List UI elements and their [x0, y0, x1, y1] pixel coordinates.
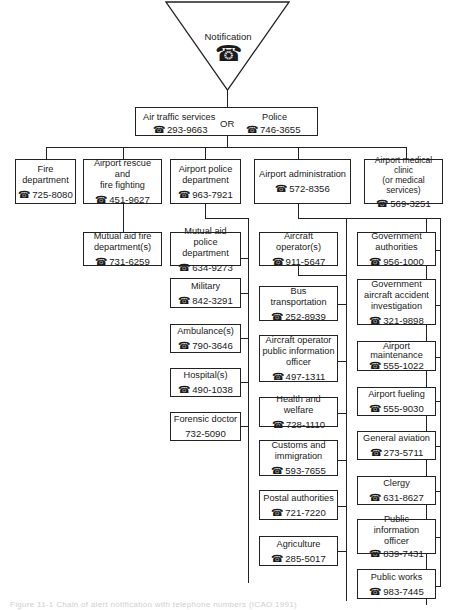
- air-traffic-services-phone: ☎293-9663: [153, 124, 208, 135]
- hospital-box: Hospital(s) ☎490-1038: [170, 368, 241, 397]
- telephone-icon: ☎: [178, 340, 190, 351]
- connector: [241, 293, 249, 294]
- telephone-icon: ☎: [178, 262, 190, 273]
- connector: [241, 382, 249, 383]
- telephone-icon: ☎: [95, 194, 107, 205]
- health-welfare-box: Health and welfare ☎728-1110: [259, 397, 338, 427]
- telephone-icon: ☎: [271, 553, 283, 564]
- telephone-icon: ☎: [210, 42, 246, 66]
- connector: [298, 204, 299, 219]
- connector: [426, 218, 441, 219]
- telephone-icon: ☎: [369, 315, 381, 326]
- connector: [436, 491, 441, 492]
- airport-rescue-box: Airport rescue and fire fighting ☎451-96…: [83, 159, 162, 204]
- air-traffic-services-label: Air traffic services: [143, 112, 215, 122]
- connector: [123, 204, 124, 232]
- general-aviation-box: General aviation ☎273-5711: [357, 431, 436, 460]
- public-works-box: Public works ☎983-7445: [357, 569, 436, 599]
- aircraft-operator-pio-box: Aircraft operator public information off…: [259, 335, 338, 382]
- connector: [205, 204, 206, 219]
- public-information-officer-box: Public information officer ☎839-7431: [357, 519, 436, 554]
- telephone-icon: ☎: [271, 465, 283, 476]
- airport-police-box: Airport police department ☎963-7921: [170, 159, 241, 204]
- or-connector: OR: [220, 118, 234, 129]
- connector: [338, 304, 347, 305]
- telephone-icon: ☎: [369, 256, 381, 267]
- military-box: Military ☎842-3291: [170, 278, 241, 308]
- connector: [205, 147, 206, 159]
- fire-department-box: Fire department ☎725-8080: [15, 159, 76, 204]
- connector: [298, 218, 427, 219]
- aircraft-operators-box: Aircraft operator(s) ☎911-5647: [259, 232, 338, 266]
- connector: [338, 506, 347, 507]
- connector: [241, 426, 249, 427]
- telephone-icon: ☎: [153, 124, 165, 135]
- connector: [241, 338, 249, 339]
- connector: [338, 551, 347, 552]
- police-phone: ☎746-3655: [246, 124, 301, 135]
- connector: [436, 305, 441, 306]
- connector: [436, 357, 441, 358]
- connector: [338, 361, 347, 362]
- mutual-aid-police-box: Mutual aid police department ☎634-9273: [170, 232, 241, 266]
- connector: [338, 413, 347, 414]
- telephone-icon: ☎: [376, 198, 388, 209]
- postal-authorities-box: Postal authorities ☎721-7220: [259, 490, 338, 520]
- telephone-icon: ☎: [95, 256, 107, 267]
- connector: [436, 537, 441, 538]
- airport-maintenance-box: Airport maintenance ☎555-1022: [357, 341, 436, 371]
- telephone-icon: ☎: [272, 419, 284, 430]
- figure-caption: Figure 11-1 Chain of alert notification …: [10, 600, 297, 609]
- telephone-icon: ☎: [246, 124, 258, 135]
- connector: [440, 218, 441, 587]
- telephone-icon: ☎: [369, 403, 381, 414]
- mutual-aid-fire-box: Mutual aid fire department(s) ☎731-6259: [83, 232, 162, 266]
- connector: [298, 275, 347, 276]
- telephone-icon: ☎: [369, 586, 381, 597]
- telephone-icon: ☎: [275, 183, 287, 194]
- connector: [46, 147, 47, 159]
- telephone-icon: ☎: [178, 384, 190, 395]
- government-authorities-box: Government authorities ☎956-1000: [357, 232, 436, 266]
- connector: [338, 460, 347, 461]
- telephone-icon: ☎: [272, 256, 284, 267]
- telephone-icon: ☎: [272, 371, 284, 382]
- connector: [298, 147, 299, 159]
- connector: [436, 250, 441, 251]
- telephone-icon: ☎: [271, 507, 283, 518]
- telephone-icon: ☎: [18, 189, 30, 200]
- telephone-icon: ☎: [369, 492, 381, 503]
- agriculture-box: Agriculture ☎285-5017: [259, 536, 338, 566]
- police-label: Police: [262, 112, 287, 122]
- connector: [241, 258, 249, 259]
- connector: [227, 90, 228, 107]
- telephone-icon: ☎: [369, 548, 381, 559]
- connector: [46, 147, 407, 148]
- telephone-icon: ☎: [178, 189, 190, 200]
- connector: [436, 586, 441, 587]
- forensic-doctor-box: Forensic doctor 732-5090: [170, 412, 241, 441]
- airport-fueling-box: Airport fueling ☎555-9030: [357, 387, 436, 416]
- telephone-icon: ☎: [369, 360, 381, 371]
- connector: [436, 446, 441, 447]
- customs-immigration-box: Customs and immigration ☎593-7655: [259, 440, 338, 476]
- connector: [248, 218, 249, 583]
- ambulance-box: Ambulance(s) ☎790-3646: [170, 324, 241, 353]
- connector: [436, 401, 441, 402]
- clergy-box: Clergy ☎631-8627: [357, 476, 436, 505]
- airport-medical-clinic-box: Airport medical clinic (or medical servi…: [364, 159, 443, 204]
- airport-administration-box: Airport administration ☎572-8356: [254, 159, 351, 204]
- government-accident-investigation-box: Government aircraft accident investigati…: [357, 279, 436, 325]
- telephone-icon: ☎: [178, 295, 190, 306]
- telephone-icon: ☎: [271, 311, 283, 322]
- connector: [205, 218, 249, 219]
- telephone-icon: ☎: [370, 447, 382, 458]
- bus-transportation-box: Bus transportation ☎252-8939: [259, 286, 338, 321]
